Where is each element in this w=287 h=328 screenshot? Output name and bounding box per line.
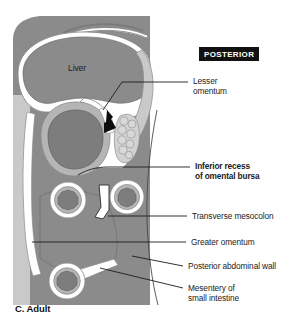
annotation-posterior-abdominal-wall: Posterior abdominal wall <box>188 261 276 271</box>
label-layer: POSTERIOR Liver Lesser omentum Inferior … <box>0 0 287 328</box>
annotation-mesentery-line1: Mesentery of <box>188 283 235 293</box>
annotation-mesentery-line2: small intestine <box>188 293 239 303</box>
panel-caption: C. Adult <box>15 303 50 314</box>
annotation-lesser-omentum-line2: omentum <box>193 86 227 96</box>
posterior-orientation-badge: POSTERIOR <box>199 47 259 61</box>
annotation-greater-omentum: Greater omentum <box>191 237 255 247</box>
annotation-transverse-mesocolon: Transverse mesocolon <box>192 211 274 221</box>
liver-label: Liver <box>68 63 86 73</box>
annotation-inferior-recess-line2: of omental bursa <box>195 171 259 181</box>
anatomy-figure: POSTERIOR Liver Lesser omentum Inferior … <box>0 0 287 328</box>
annotation-lesser-omentum-line1: Lesser <box>193 76 217 86</box>
annotation-inferior-recess-line1: Inferior recess <box>195 161 250 171</box>
